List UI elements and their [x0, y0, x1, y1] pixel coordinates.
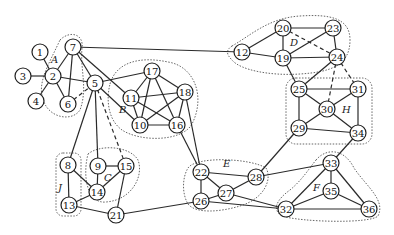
node-23: 23	[325, 20, 341, 36]
node-label: 23	[327, 23, 340, 34]
node-2: 2	[45, 68, 61, 84]
node-18: 18	[177, 84, 193, 100]
node-label: 35	[325, 186, 338, 197]
node-14: 14	[89, 184, 105, 200]
node-16: 16	[169, 117, 185, 133]
node-12: 12	[234, 44, 250, 60]
node-7: 7	[65, 39, 81, 55]
group-label-h: H	[341, 104, 351, 115]
node-11: 11	[123, 90, 139, 106]
node-label: 14	[91, 187, 104, 198]
node-label: 34	[352, 128, 365, 139]
node-label: 12	[236, 47, 249, 58]
node-28: 28	[248, 169, 264, 185]
node-3: 3	[15, 68, 31, 84]
node-8: 8	[60, 157, 76, 173]
node-label: 15	[120, 161, 133, 172]
node-26: 26	[193, 193, 209, 209]
node-label: 32	[280, 204, 293, 215]
edge-18-22	[185, 92, 201, 172]
node-label: 8	[65, 160, 71, 171]
node-36: 36	[361, 201, 377, 217]
edge-5-9	[95, 83, 98, 166]
node-label: 19	[277, 53, 290, 64]
node-20: 20	[275, 20, 291, 36]
node-label: 11	[125, 93, 138, 104]
node-21: 21	[108, 207, 124, 223]
node-label: 18	[179, 87, 192, 98]
node-label: 22	[195, 167, 208, 178]
edge-5-8	[68, 83, 95, 165]
group-label-e: E	[222, 158, 231, 169]
node-label: 30	[321, 104, 334, 115]
node-4: 4	[28, 93, 44, 109]
node-22: 22	[193, 164, 209, 180]
node-label: 1	[37, 47, 43, 58]
node-31: 31	[350, 81, 366, 97]
node-label: 9	[95, 161, 101, 172]
node-label: 28	[250, 172, 263, 183]
node-label: 10	[134, 120, 147, 131]
node-10: 10	[132, 117, 148, 133]
node-34: 34	[350, 125, 366, 141]
node-15: 15	[118, 158, 134, 174]
node-1: 1	[32, 44, 48, 60]
node-label: 5	[92, 78, 98, 89]
node-35: 35	[323, 183, 339, 199]
node-label: 17	[146, 66, 159, 77]
group-label-c: C	[104, 172, 112, 183]
node-6: 6	[60, 96, 76, 112]
group-label-b: B	[118, 104, 126, 115]
node-9: 9	[90, 158, 106, 174]
node-label: 3	[20, 71, 26, 82]
node-30: 30	[319, 101, 335, 117]
node-label: 2	[50, 71, 56, 82]
node-label: 25	[293, 84, 306, 95]
node-label: 4	[33, 96, 39, 107]
node-label: 16	[171, 120, 184, 131]
node-label: 33	[325, 158, 338, 169]
node-label: 7	[70, 42, 76, 53]
node-25: 25	[291, 81, 307, 97]
node-label: 21	[110, 210, 123, 221]
group-label-j: J	[56, 182, 63, 193]
node-label: 20	[277, 23, 290, 34]
node-19: 19	[275, 50, 291, 66]
network-diagram: ABCDEFHJ 1234567891011121314151617181920…	[0, 0, 394, 235]
node-29: 29	[291, 120, 307, 136]
edge-5-15	[95, 83, 126, 166]
node-label: 36	[363, 204, 376, 215]
group-label-d: D	[289, 37, 298, 48]
edge-7-12	[73, 47, 242, 52]
group-label-a: A	[50, 54, 58, 65]
node-label: 6	[65, 99, 71, 110]
node-label: 24	[331, 52, 344, 63]
node-32: 32	[278, 201, 294, 217]
node-label: 27	[220, 188, 233, 199]
node-27: 27	[218, 185, 234, 201]
edge-29-34	[299, 128, 358, 133]
group-label-f: F	[312, 182, 321, 193]
node-5: 5	[87, 75, 103, 91]
node-label: 13	[63, 200, 76, 211]
edge-21-26	[116, 201, 201, 215]
node-33: 33	[323, 155, 339, 171]
node-24: 24	[329, 49, 345, 65]
node-17: 17	[144, 63, 160, 79]
node-label: 26	[195, 196, 208, 207]
node-label: 31	[352, 84, 365, 95]
node-13: 13	[61, 197, 77, 213]
node-label: 29	[293, 123, 306, 134]
